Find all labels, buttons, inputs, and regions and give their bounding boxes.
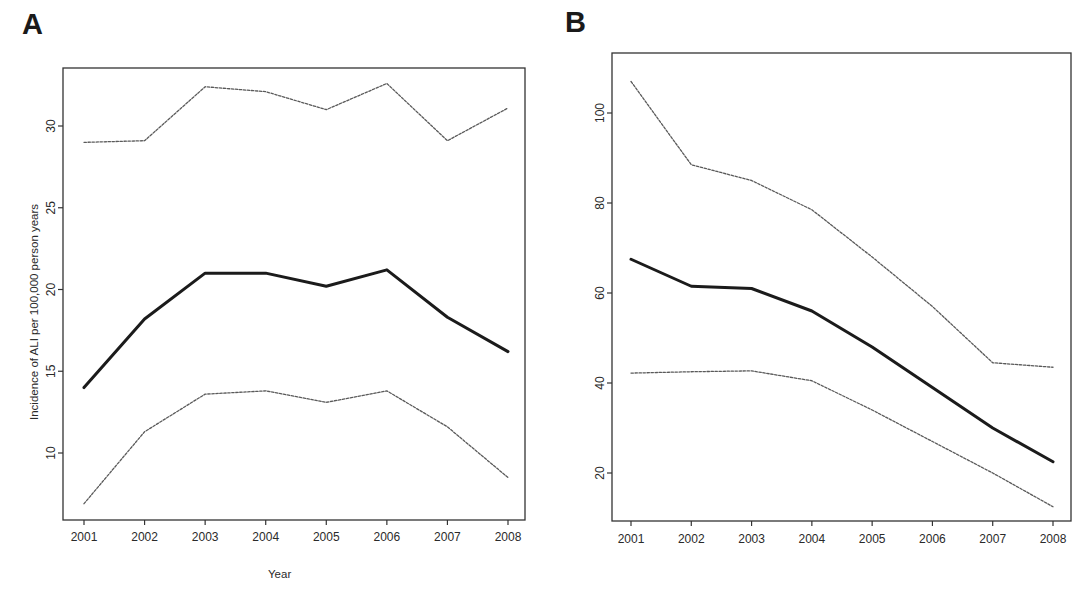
x-axis-tick-label: 2004 [799,532,826,546]
y-axis-tick-label: 30 [44,119,58,133]
panel-b: B 20406080100200120022003200420052006200… [541,0,1082,599]
y-axis-tick-label: 10 [44,446,58,460]
series-confidence-limit-line [84,391,508,504]
panel-b-plot: 2040608010020012002200320042005200620072… [541,0,1082,599]
x-axis-tick-label: 2002 [131,530,158,544]
panel-a-x-axis-title: Year [268,568,291,580]
x-axis-tick-label: 2006 [919,532,946,546]
y-axis-tick-label: 80 [593,196,607,210]
figure-two-panel-line-charts: A 10152025302001200220032004200520062007… [0,0,1082,599]
x-axis-tick-label: 2006 [374,530,401,544]
y-axis-tick-label: 15 [44,364,58,378]
x-axis-tick-label: 2001 [618,532,645,546]
y-axis-tick-label: 25 [44,201,58,215]
series-confidence-limit-line [84,83,508,142]
plot-frame [612,53,1071,521]
series-confidence-limit-line [631,371,1053,507]
series-confidence-limit-line [631,82,1053,368]
x-axis-tick-label: 2003 [192,530,219,544]
x-axis-tick-label: 2007 [979,532,1006,546]
series-estimate-line [84,270,508,388]
y-axis-tick-label: 60 [593,286,607,300]
x-axis-tick-label: 2001 [71,530,98,544]
y-axis-tick-label: 20 [44,283,58,297]
panel-a-plot: 1015202530200120022003200420052006200720… [0,0,541,599]
x-axis-tick-label: 2005 [859,532,886,546]
x-axis-tick-label: 2007 [434,530,461,544]
x-axis-tick-label: 2008 [495,530,522,544]
x-axis-tick-label: 2003 [738,532,765,546]
x-axis-tick-label: 2008 [1040,532,1067,546]
x-axis-tick-label: 2002 [678,532,705,546]
panel-a: A 10152025302001200220032004200520062007… [0,0,541,599]
panel-a-y-axis-title: Incidence of ALI per 100,000 person year… [28,204,40,420]
y-axis-tick-label: 20 [593,466,607,480]
x-axis-tick-label: 2005 [313,530,340,544]
y-axis-tick-label: 100 [593,103,607,123]
y-axis-tick-label: 40 [593,376,607,390]
x-axis-tick-label: 2004 [252,530,279,544]
